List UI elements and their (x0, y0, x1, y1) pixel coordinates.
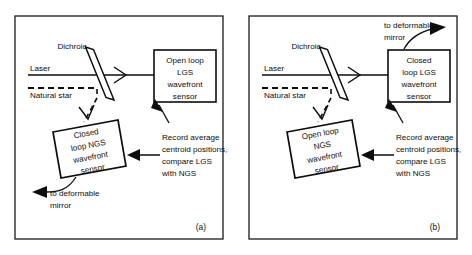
panel-a-dichroic-label: Dichroic (57, 42, 86, 51)
panel-a-transmitted-box-line-2: LGS (177, 68, 194, 77)
panel-a-output-label-line-2: mirror (50, 201, 71, 210)
panel-a-annotation-line-1: Record average (162, 133, 220, 142)
panel-b-transmitted-box-line-4: sensor (407, 92, 432, 101)
panel-b-transmitted-box-line-2: loop LGS (402, 68, 436, 77)
panel-b-annotation-line-2: centroid positions, (396, 145, 461, 154)
panel-b-output-label-line-1: to deformable (384, 21, 434, 30)
panel-a-annotation-line-4: with NGS (161, 169, 197, 178)
figure-root: Dichroic Laser Natural star Open loop LG… (0, 0, 472, 255)
panel-a-caption: (a) (196, 222, 206, 232)
panel-a-output-label-line-1: to deformable (50, 189, 100, 198)
panel-a-transmitted-box-line-1: Open loop (166, 56, 204, 65)
panel-b-output-label-line-2: mirror (384, 33, 405, 42)
panel-a-transmitted-box-line-3: wavefront (166, 80, 203, 89)
panel-b-dichroic-label: Dichroic (291, 42, 320, 51)
panel-b-laser-label: Laser (264, 64, 285, 73)
panel-a-laser-label: Laser (30, 64, 51, 73)
panel-b-transmitted-box-line-3: wavefront (400, 80, 437, 89)
diagram-canvas: Dichroic Laser Natural star Open loop LG… (0, 0, 472, 255)
panel-a-natural-star-label: Natural star (30, 91, 72, 100)
panel-b-natural-star-label: Natural star (264, 91, 306, 100)
panel-b-caption: (b) (430, 222, 440, 232)
panel-a-annotation-line-2: centroid positions, (162, 145, 227, 154)
panel-a-transmitted-box-line-4: sensor (173, 92, 198, 101)
panel-b-transmitted-box-line-1: Closed (406, 56, 431, 65)
panel-b-annotation-line-4: with NGS (395, 169, 431, 178)
panel-b-annotation-line-1: Record average (396, 133, 454, 142)
panel-b-annotation-line-3: compare LGS (396, 157, 447, 166)
panel-a-annotation-line-3: compare LGS (162, 157, 213, 166)
